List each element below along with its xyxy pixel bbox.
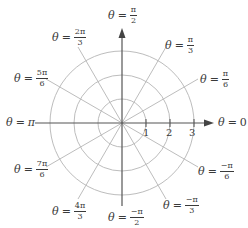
angle-fraction: −π 6: [220, 162, 234, 181]
label-theta-0: θ = 0: [218, 117, 247, 128]
equals-sign: =: [118, 10, 127, 21]
equals-sign: =: [228, 117, 237, 128]
spoke-pi-6: [122, 79, 198, 123]
fraction-numerator: −π: [220, 162, 234, 172]
fraction-numerator: π: [130, 6, 137, 16]
angle-fraction: π 3: [187, 36, 194, 55]
tick-label-1: 1: [143, 127, 149, 138]
spoke-pi-3: [122, 47, 166, 123]
equals-sign: =: [62, 32, 71, 43]
angle-fraction: 4π 3: [74, 202, 86, 221]
fraction-denominator: 3: [77, 212, 82, 221]
angle-fraction: 7π 6: [36, 160, 48, 179]
fraction-denominator: 6: [224, 172, 229, 181]
fraction-denominator: 3: [188, 46, 193, 55]
polar-grid-diagram: 1 2 3 θ = 0 θ = π 6 θ = π 3 θ = π 2 θ =: [0, 0, 248, 228]
fraction-numerator: 4π: [74, 202, 86, 212]
theta-symbol: θ: [165, 40, 172, 51]
label-theta-2pi-3: θ = 2π 3: [52, 28, 86, 47]
spoke-2pi-3: [78, 47, 122, 123]
angle-fraction: −π 3: [185, 196, 199, 215]
label-theta-neg-pi-3: θ = −π 3: [163, 196, 199, 215]
label-theta-neg-pi-2: θ = −π 2: [108, 208, 144, 227]
label-theta-4pi-3: θ = 4π 3: [52, 202, 86, 221]
theta-symbol: θ: [6, 117, 13, 128]
label-theta-5pi-6: θ = 5π 6: [14, 69, 48, 88]
tick-label-3: 3: [189, 127, 195, 138]
theta-symbol: θ: [14, 73, 21, 84]
angle-fraction: π 2: [130, 6, 137, 25]
polar-grid-svg: [0, 0, 248, 228]
fraction-numerator: π: [187, 36, 194, 46]
equals-sign: =: [16, 117, 25, 128]
equals-sign: =: [175, 40, 184, 51]
theta-symbol: θ: [198, 166, 205, 177]
theta-symbol: θ: [200, 74, 207, 85]
angle-fraction: 2π 3: [74, 28, 86, 47]
angle-fraction: −π 2: [130, 208, 144, 227]
equals-sign: =: [208, 166, 217, 177]
theta-symbol: θ: [52, 32, 59, 43]
spoke-7pi-6: [46, 123, 122, 167]
angle-value: 0: [240, 117, 247, 128]
equals-sign: =: [24, 73, 33, 84]
fraction-numerator: π: [222, 70, 229, 80]
fraction-denominator: 6: [223, 80, 228, 89]
fraction-denominator: 2: [134, 218, 139, 227]
spoke-5pi-6: [46, 79, 122, 123]
arrow-right-icon: [204, 120, 214, 127]
tick-label-2: 2: [166, 127, 172, 138]
label-theta-7pi-6: θ = 7π 6: [14, 160, 48, 179]
theta-symbol: θ: [52, 206, 59, 217]
theta-symbol: θ: [218, 117, 225, 128]
fraction-numerator: −π: [185, 196, 199, 206]
equals-sign: =: [210, 74, 219, 85]
label-theta-pi-6: θ = π 6: [200, 70, 229, 89]
fraction-denominator: 3: [189, 206, 194, 215]
theta-symbol: θ: [14, 164, 21, 175]
equals-sign: =: [24, 164, 33, 175]
equals-sign: =: [62, 206, 71, 217]
fraction-denominator: 6: [39, 79, 44, 88]
theta-symbol: θ: [163, 200, 170, 211]
fraction-numerator: 2π: [74, 28, 86, 38]
angle-fraction: 5π 6: [36, 69, 48, 88]
label-theta-neg-pi-6: θ = −π 6: [198, 162, 234, 181]
fraction-numerator: −π: [130, 208, 144, 218]
theta-symbol: θ: [108, 212, 115, 223]
fraction-denominator: 6: [39, 170, 44, 179]
spoke-neg-pi-6: [122, 123, 198, 167]
equals-sign: =: [173, 200, 182, 211]
fraction-numerator: 5π: [36, 69, 48, 79]
fraction-denominator: 2: [131, 16, 136, 25]
fraction-denominator: 3: [77, 38, 82, 47]
label-theta-pi-3: θ = π 3: [165, 36, 194, 55]
arrow-up-icon: [119, 28, 126, 38]
angle-value: π: [28, 117, 35, 128]
theta-symbol: θ: [108, 10, 115, 21]
label-theta-pi-2: θ = π 2: [108, 6, 137, 25]
equals-sign: =: [118, 212, 127, 223]
angle-fraction: π 6: [222, 70, 229, 89]
fraction-numerator: 7π: [36, 160, 48, 170]
label-theta-pi: θ = π: [6, 117, 35, 128]
spoke-4pi-3: [78, 123, 122, 199]
